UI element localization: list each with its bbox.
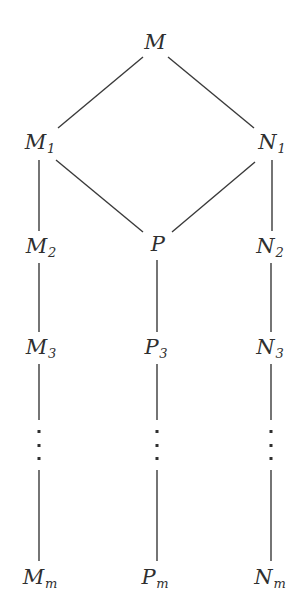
node-Nm: Nm xyxy=(254,567,285,590)
node-N1: N1 xyxy=(258,132,285,155)
node-M3: M3 xyxy=(26,337,56,360)
node-label-base: P xyxy=(141,565,155,589)
node-label-base: M xyxy=(25,130,47,154)
ellipsis-dot xyxy=(270,444,273,447)
node-label-base: N xyxy=(254,565,273,589)
node-label-base: P xyxy=(151,232,165,256)
node-label-base: M xyxy=(23,565,45,589)
vertical-ellipsis-dots-left xyxy=(38,430,41,460)
node-M: M xyxy=(144,32,166,53)
node-label-subscript: m xyxy=(156,575,168,590)
node-label-subscript: 3 xyxy=(48,345,56,360)
ellipsis-dot xyxy=(270,457,273,460)
edge-M-M1 xyxy=(58,57,143,128)
node-Pm: Pm xyxy=(141,567,168,590)
node-label-subscript: m xyxy=(45,575,57,590)
node-M2: M2 xyxy=(26,236,56,259)
ellipsis-dot xyxy=(38,444,41,447)
vertical-ellipsis-dots-center xyxy=(156,430,159,460)
node-label-subscript: 1 xyxy=(277,140,285,155)
node-label-base: M xyxy=(144,30,166,54)
ellipsis-dot xyxy=(270,430,273,433)
node-label-subscript: m xyxy=(273,575,285,590)
node-label-base: M xyxy=(26,234,48,258)
lattice-diagram: MM1N1M2PN2M3P3N3MmPmNm xyxy=(0,0,307,605)
edge-layer xyxy=(0,0,307,605)
node-label-subscript: 3 xyxy=(275,345,283,360)
node-N3: N3 xyxy=(256,337,283,360)
node-M1: M1 xyxy=(25,132,55,155)
node-label-subscript: 1 xyxy=(47,140,55,155)
ellipsis-dot xyxy=(156,457,159,460)
node-P: P xyxy=(151,234,165,255)
edge-M-N1 xyxy=(168,57,254,128)
ellipsis-dot xyxy=(156,444,159,447)
node-Mm: Mm xyxy=(23,567,58,590)
node-P3: P3 xyxy=(144,337,167,360)
node-label-base: M xyxy=(26,335,48,359)
edge-M1-P xyxy=(56,160,143,232)
node-label-base: N xyxy=(256,234,275,258)
ellipsis-dot xyxy=(156,430,159,433)
node-label-subscript: 2 xyxy=(275,244,283,259)
node-label-subscript: 2 xyxy=(48,244,56,259)
ellipsis-dot xyxy=(38,430,41,433)
node-label-base: P xyxy=(144,335,158,359)
vertical-ellipsis-dots-right xyxy=(270,430,273,460)
ellipsis-dot xyxy=(38,457,41,460)
edge-N1-P xyxy=(172,162,255,232)
node-label-subscript: 3 xyxy=(159,345,167,360)
node-label-base: N xyxy=(256,335,275,359)
node-label-base: N xyxy=(258,130,277,154)
node-N2: N2 xyxy=(256,236,283,259)
